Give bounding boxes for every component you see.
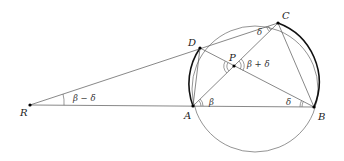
arc-DA <box>189 48 200 106</box>
point-C <box>276 21 279 24</box>
label-R: R <box>19 107 28 118</box>
label-D: D <box>187 37 196 48</box>
point-P <box>232 64 235 67</box>
angle-mark-B-2 <box>300 101 302 107</box>
point-A <box>191 104 194 107</box>
angle-mark-R <box>63 94 64 105</box>
point-D <box>198 46 201 49</box>
label-P: P <box>228 52 236 63</box>
angle-label-A: β <box>208 97 214 107</box>
point-B <box>312 105 315 108</box>
angle-label-R: β − δ <box>72 93 96 103</box>
label-B: B <box>317 111 325 122</box>
line-RB <box>30 105 314 107</box>
geometry-diagram: R A B C D P β − δ β δ δ β + δ <box>0 0 344 161</box>
label-A: A <box>183 110 191 121</box>
angle-mark-P-right-2 <box>241 59 244 71</box>
line-CB <box>278 23 314 107</box>
point-R <box>28 103 31 106</box>
angle-label-P: β + δ <box>246 59 270 69</box>
angle-mark-A-1 <box>199 100 201 106</box>
angle-mark-P-left-1 <box>227 63 229 71</box>
angle-mark-A-2 <box>200 99 203 106</box>
angle-mark-P-left-2 <box>224 61 227 73</box>
line-DB <box>200 48 314 107</box>
label-C: C <box>282 10 290 21</box>
line-AD <box>193 48 200 106</box>
angle-label-C: δ <box>257 27 262 37</box>
angle-mark-B-1 <box>302 102 303 107</box>
angle-label-B: δ <box>286 97 291 107</box>
